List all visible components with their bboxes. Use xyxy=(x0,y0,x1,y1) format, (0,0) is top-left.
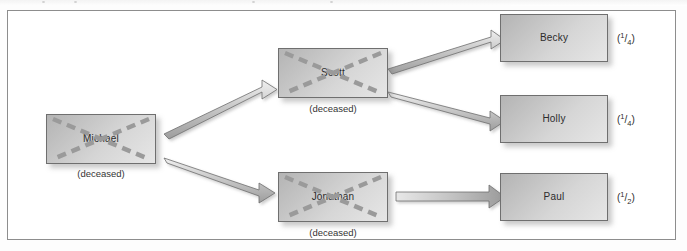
share-becky: (1/4) xyxy=(617,31,635,47)
share-paul: (1/2) xyxy=(617,190,635,206)
node-michael-label: Michael xyxy=(83,134,119,144)
share-close-paren: ) xyxy=(631,192,634,203)
node-becky[interactable]: Becky xyxy=(500,14,608,62)
edge-michael-to-scott xyxy=(164,80,277,139)
share-close-paren: ) xyxy=(631,33,634,44)
node-becky-label: Becky xyxy=(540,33,568,43)
node-holly-label: Holly xyxy=(542,114,565,124)
diagram-page: Michael (deceased) Scott (deceased) Jona… xyxy=(0,0,687,251)
node-michael[interactable]: Michael xyxy=(46,114,156,164)
node-paul[interactable]: Paul xyxy=(500,173,608,221)
share-close-paren: ) xyxy=(631,114,634,125)
edge-scott-to-becky xyxy=(388,30,505,74)
node-jonathan-label: Jonathan xyxy=(312,192,355,202)
edge-michael-to-jonathan xyxy=(164,158,275,203)
node-michael-deceased-note: (deceased) xyxy=(46,168,156,179)
edge-scott-to-holly xyxy=(388,92,505,131)
node-scott-label: Scott xyxy=(321,68,345,78)
node-paul-label: Paul xyxy=(544,192,565,202)
node-holly[interactable]: Holly xyxy=(500,95,608,143)
node-jonathan[interactable]: Jonathan xyxy=(278,172,388,222)
node-scott-deceased-note: (deceased) xyxy=(278,103,388,114)
node-scott[interactable]: Scott xyxy=(278,48,388,98)
edge-jonathan-to-paul xyxy=(396,185,505,208)
node-jonathan-deceased-note: (deceased) xyxy=(278,227,388,238)
share-holly: (1/4) xyxy=(617,112,635,128)
